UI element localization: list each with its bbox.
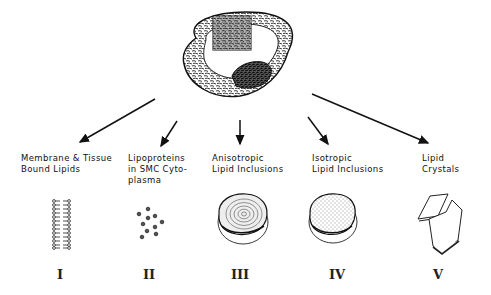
- numeral-III: III: [225, 267, 255, 282]
- label-line: Isotropic: [312, 153, 383, 164]
- label-line: Crystals: [422, 164, 459, 175]
- arrow-to-IV: [308, 117, 328, 144]
- label-II: Lipoproteins in SMC Cyto- plasma: [128, 153, 187, 186]
- label-III: Anisotropic Lipid Inclusions: [212, 153, 283, 175]
- artery-cross-section-illustration: [183, 12, 292, 97]
- diagram-canvas: [0, 0, 491, 295]
- label-line: Lipoproteins: [128, 153, 187, 164]
- label-line: Lipid Inclusions: [212, 164, 283, 175]
- arrow-to-I: [80, 99, 155, 142]
- label-line: Bound Lipids: [21, 164, 112, 175]
- numeral-V: V: [423, 267, 453, 282]
- arrow-to-V: [312, 94, 428, 143]
- plate-crystals-illustration: [418, 194, 462, 254]
- anisotropic-droplet-illustration: [218, 194, 268, 244]
- label-V: Lipid Crystals: [422, 153, 459, 175]
- label-line: plasma: [128, 175, 187, 186]
- arrows: [80, 94, 428, 146]
- numeral-II: II: [134, 267, 164, 282]
- label-I: Membrane & Tissue Bound Lipids: [21, 153, 112, 175]
- label-line: Anisotropic: [212, 153, 283, 164]
- isotropic-droplet-illustration: [309, 194, 357, 243]
- scattered-particles-illustration: [137, 207, 164, 239]
- label-line: Lipid: [422, 153, 459, 164]
- lipid-bilayer-illustration: [53, 200, 71, 250]
- label-line: Lipid Inclusions: [312, 164, 383, 175]
- arrow-to-II: [161, 121, 177, 146]
- numeral-IV: IV: [322, 267, 352, 282]
- label-line: Membrane & Tissue: [21, 153, 112, 164]
- numeral-I: I: [45, 267, 75, 282]
- label-IV: Isotropic Lipid Inclusions: [312, 153, 383, 175]
- label-line: in SMC Cyto-: [128, 164, 187, 175]
